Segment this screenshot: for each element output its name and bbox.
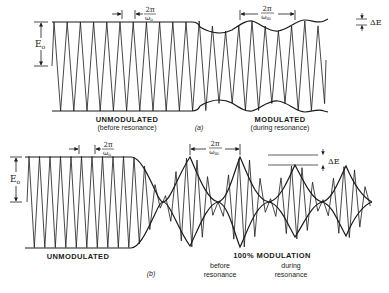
panel-b-carrier-wave	[27, 157, 370, 248]
panel-b-before-label-2: resonance	[204, 271, 237, 278]
panel-a-unmodulated-title: UNMODULATED	[96, 115, 159, 124]
panel-a-delta-indicator	[356, 13, 367, 31]
panel-b-carrier-period-den: ωo	[103, 149, 111, 157]
panel-b: Eo 2π ωo 2π ωm ΔE UNMODULATE	[10, 140, 372, 278]
panel-a-carrier-period-indicator	[112, 10, 143, 19]
panel-b-tag: (b)	[147, 270, 156, 278]
panel-a-amplitude-label: Eo	[35, 39, 46, 50]
panel-a-mod-period-den: ωm	[261, 13, 271, 21]
panel-a-carrier-period-den: ωo	[145, 14, 153, 22]
panel-a-mod-period-num: 2π	[262, 5, 271, 13]
panel-b-during-label-2: resonance	[275, 271, 308, 278]
panel-b-before-label-1: before	[210, 262, 230, 269]
panel-b-during-label-1: during	[281, 262, 301, 270]
panel-a-carrier-wave	[52, 21, 326, 111]
panel-b-mod-period-num: 2π	[210, 140, 219, 148]
panel-b-unmodulated-title: UNMODULATED	[47, 252, 110, 261]
panel-a-modulated-title: MODULATED	[255, 115, 306, 124]
panel-b-amplitude-label: Eo	[10, 174, 21, 185]
panel-b-carrier-period-num: 2π	[103, 141, 112, 149]
panel-b-delta-label: ΔE	[328, 157, 340, 166]
panel-a-unmodulated-subtitle: (before resonance)	[97, 124, 156, 132]
panel-a-carrier-period-num: 2π	[145, 6, 154, 14]
panel-a-tag: (a)	[195, 124, 204, 132]
modulation-diagram: Eo 2π ωo 2π ωm ΔE UNMODULATE	[0, 0, 389, 293]
panel-b-carrier-period-indicator	[69, 145, 101, 154]
panel-a-modulated-subtitle: (during resonance)	[251, 124, 310, 132]
panel-b-mod-period-den: ωm	[209, 148, 219, 156]
panel-a: Eo 2π ωo 2π ωm ΔE UNMODULATE	[34, 5, 382, 132]
panel-b-modulation-title: 100% MODULATION	[233, 251, 311, 260]
panel-b-delta-indicator	[268, 149, 323, 171]
panel-a-delta-label: ΔE	[370, 18, 382, 27]
